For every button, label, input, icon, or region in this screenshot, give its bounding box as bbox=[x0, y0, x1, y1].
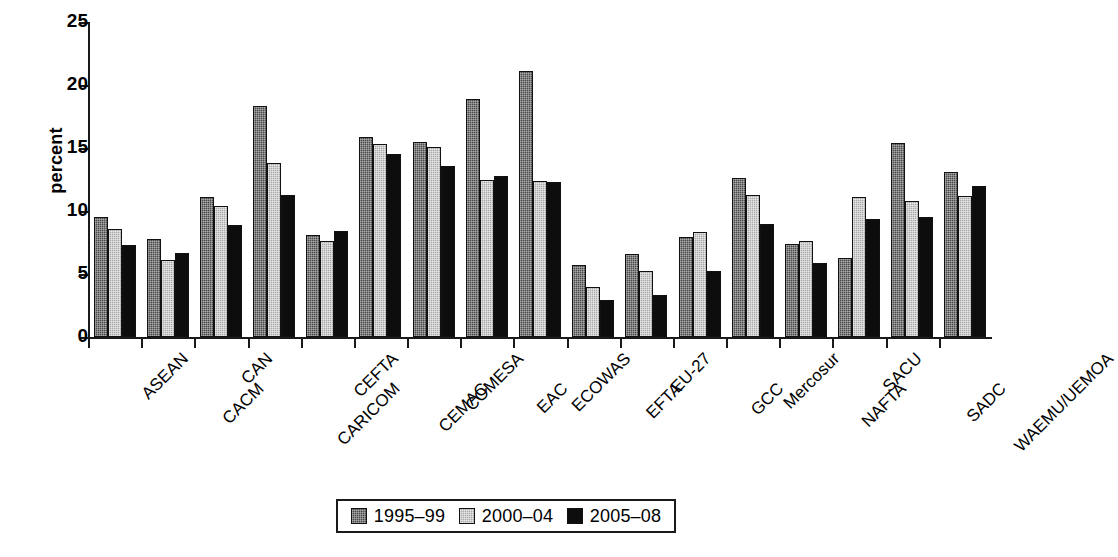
bar bbox=[108, 229, 122, 337]
y-tick-label: 25 bbox=[48, 10, 88, 32]
x-axis-label: WAEMU/UEMOA bbox=[1010, 349, 1117, 456]
chart-legend: 1995–99 2000–04 2005–08 bbox=[336, 499, 676, 533]
x-tick bbox=[832, 339, 834, 348]
bar bbox=[586, 287, 600, 337]
x-axis-label: COMESA bbox=[462, 349, 528, 415]
bar-group bbox=[141, 22, 194, 337]
bar bbox=[441, 166, 455, 337]
x-tick bbox=[88, 339, 90, 348]
bar-group bbox=[673, 22, 726, 337]
bar bbox=[625, 254, 639, 337]
x-tick bbox=[407, 339, 409, 348]
bar bbox=[200, 197, 214, 337]
bar-group bbox=[88, 22, 141, 337]
bar bbox=[813, 263, 827, 337]
legend-swatch-1995-99-icon bbox=[351, 508, 367, 524]
x-axis-label: SADC bbox=[962, 379, 1010, 427]
legend-item: 2000–04 bbox=[459, 506, 553, 527]
bar bbox=[572, 265, 586, 337]
bar bbox=[799, 241, 813, 337]
bar bbox=[359, 137, 373, 337]
x-tick bbox=[779, 339, 781, 348]
bar bbox=[707, 271, 721, 337]
bar bbox=[838, 258, 852, 337]
x-tick bbox=[194, 339, 196, 348]
bar-group bbox=[832, 22, 885, 337]
bar bbox=[267, 163, 281, 337]
bar-group bbox=[779, 22, 832, 337]
x-tick bbox=[620, 339, 622, 348]
x-axis-label: CACM bbox=[219, 379, 269, 429]
bar-group bbox=[301, 22, 354, 337]
bar bbox=[161, 260, 175, 337]
bar bbox=[639, 271, 653, 337]
x-axis-label: ECOWAS bbox=[568, 349, 635, 416]
x-axis-label: CAN bbox=[238, 349, 278, 389]
bar bbox=[679, 237, 693, 337]
x-tick bbox=[248, 339, 250, 348]
x-axis-label: EAC bbox=[533, 379, 572, 418]
bar-group bbox=[407, 22, 460, 337]
x-tick bbox=[460, 339, 462, 348]
bar bbox=[466, 99, 480, 337]
y-tick-label: 10 bbox=[48, 199, 88, 221]
legend-item: 2005–08 bbox=[567, 506, 661, 527]
y-tick-label: 0 bbox=[48, 325, 88, 347]
bar bbox=[122, 245, 136, 337]
bar bbox=[334, 231, 348, 337]
x-tick bbox=[886, 339, 888, 348]
bar-group bbox=[248, 22, 301, 337]
bar bbox=[306, 235, 320, 337]
bar bbox=[373, 144, 387, 337]
bar-group bbox=[939, 22, 992, 337]
legend-item: 1995–99 bbox=[351, 506, 445, 527]
bar bbox=[866, 219, 880, 337]
x-tick bbox=[301, 339, 303, 348]
bar bbox=[746, 195, 760, 337]
bar-group bbox=[886, 22, 939, 337]
bar bbox=[891, 143, 905, 337]
bar bbox=[958, 196, 972, 337]
bar bbox=[653, 295, 667, 337]
bar bbox=[281, 195, 295, 337]
x-tick bbox=[513, 339, 515, 348]
x-tick bbox=[673, 339, 675, 348]
legend-label: 2000–04 bbox=[482, 506, 553, 527]
bar bbox=[494, 176, 508, 337]
bar bbox=[944, 172, 958, 337]
x-tick bbox=[354, 339, 356, 348]
bar-group bbox=[460, 22, 513, 337]
plot-area: 0510152025 bbox=[88, 22, 992, 337]
bar bbox=[533, 181, 547, 337]
x-tick bbox=[939, 339, 941, 348]
bar-group bbox=[620, 22, 673, 337]
bar bbox=[228, 225, 242, 337]
y-tick-label: 5 bbox=[48, 262, 88, 284]
bar bbox=[600, 300, 614, 337]
bar bbox=[519, 71, 533, 337]
x-tick bbox=[567, 339, 569, 348]
bar bbox=[785, 244, 799, 337]
bar bbox=[919, 217, 933, 337]
bar bbox=[175, 253, 189, 337]
bar bbox=[547, 182, 561, 337]
y-tick-label: 20 bbox=[48, 73, 88, 95]
bar bbox=[972, 186, 986, 337]
bar-group bbox=[354, 22, 407, 337]
bar bbox=[413, 142, 427, 337]
bar bbox=[253, 106, 267, 337]
bar-group bbox=[194, 22, 247, 337]
bar bbox=[480, 180, 494, 338]
x-tick bbox=[141, 339, 143, 348]
bar-group bbox=[513, 22, 566, 337]
bar bbox=[320, 241, 334, 337]
x-axis-label: Mercosur bbox=[780, 349, 844, 413]
bar bbox=[760, 224, 774, 337]
bar bbox=[905, 201, 919, 337]
legend-label: 2005–08 bbox=[590, 506, 661, 527]
legend-label: 1995–99 bbox=[374, 506, 445, 527]
bar bbox=[387, 154, 401, 337]
bar bbox=[147, 239, 161, 337]
bar bbox=[94, 217, 108, 337]
